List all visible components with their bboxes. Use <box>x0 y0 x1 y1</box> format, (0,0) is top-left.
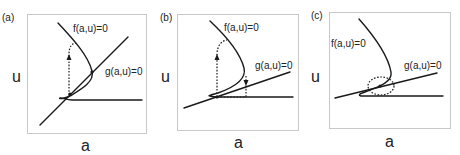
panel-label-b: (b) <box>160 12 172 23</box>
f-label-c: f(a,u)=0 <box>331 38 366 49</box>
fixed-point-b <box>215 95 218 98</box>
g-nullcline-b <box>184 72 290 108</box>
panel-a: (a) u a f(a,u)=0 g(a,u)=0 <box>2 12 147 154</box>
g-label-b: g(a,u)=0 <box>255 60 293 71</box>
panel-c: (c) u a f(a,u)=0 g(a,u)=0 <box>311 10 451 150</box>
ylabel-a: u <box>12 68 21 85</box>
g-label-a: g(a,u)=0 <box>105 66 143 77</box>
g-label-c: g(a,u)=0 <box>404 60 442 71</box>
ylabel-b: u <box>161 68 170 85</box>
panel-b: (b) u a f(a,u)=0 g(a,u)=0 <box>160 12 299 151</box>
f-label-a: f(a,u)=0 <box>73 23 108 34</box>
fixed-point-c <box>379 85 382 88</box>
xlabel-c: a <box>385 133 394 150</box>
arrow-down-icon-b <box>244 80 249 86</box>
panel-label-c: (c) <box>311 10 323 21</box>
f-nullcline-c <box>359 19 443 96</box>
panel-label-a: (a) <box>2 12 14 23</box>
g-nullcline-a <box>40 37 128 125</box>
trajectory-a <box>69 43 76 95</box>
xlabel-a: a <box>81 137 90 154</box>
figure-canvas: (a) u a f(a,u)=0 g(a,u)=0 (b) u a f(a,u)… <box>0 0 460 155</box>
fixed-point-a-upper <box>90 70 93 73</box>
xlabel-b: a <box>234 134 243 151</box>
f-label-b: f(a,u)=0 <box>224 22 259 33</box>
fixed-point-a-lower <box>68 92 71 95</box>
trajectory-b-up <box>217 40 227 97</box>
f-nullcline-a <box>58 23 142 100</box>
arrow-up-icon-a <box>67 54 72 60</box>
arrow-up-icon-b <box>215 54 220 60</box>
ylabel-c: u <box>311 68 320 85</box>
g-nullcline-c <box>335 73 437 98</box>
